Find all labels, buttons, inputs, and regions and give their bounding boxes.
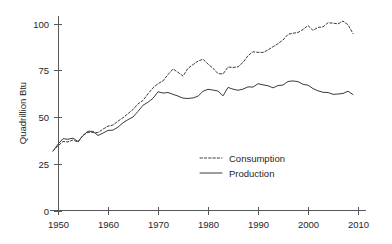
legend-label-consumption: Consumption	[229, 153, 285, 164]
x-tick-label-2010: 2010	[348, 219, 369, 230]
x-axis-tick-labels: 1950196019701980199020002010	[48, 219, 369, 230]
y-tick-label-0: 0	[44, 206, 49, 217]
series-line-production	[53, 81, 353, 151]
x-tick-label-1960: 1960	[98, 219, 119, 230]
series-line-consumption	[53, 21, 353, 151]
y-axis-tick-labels: 0255075100	[33, 19, 49, 217]
x-tick-label-2000: 2000	[298, 219, 319, 230]
x-tick-label-1970: 1970	[148, 219, 169, 230]
y-tick-label-100: 100	[33, 19, 49, 30]
energy-chart: 0255075100 1950196019701980199020002010 …	[0, 0, 392, 244]
y-axis-title: Quadrillion Btu	[17, 82, 28, 144]
legend-label-production: Production	[229, 168, 274, 179]
x-tick-label-1980: 1980	[198, 219, 219, 230]
chart-plot-area: 0255075100 1950196019701980199020002010 …	[0, 0, 392, 244]
y-tick-label-75: 75	[38, 65, 49, 76]
chart-legend: ConsumptionProduction	[200, 153, 285, 179]
x-tick-label-1950: 1950	[48, 219, 69, 230]
x-tick-label-1990: 1990	[248, 219, 269, 230]
y-tick-label-50: 50	[38, 112, 49, 123]
y-tick-label-25: 25	[38, 159, 49, 170]
data-series-group	[53, 21, 353, 151]
